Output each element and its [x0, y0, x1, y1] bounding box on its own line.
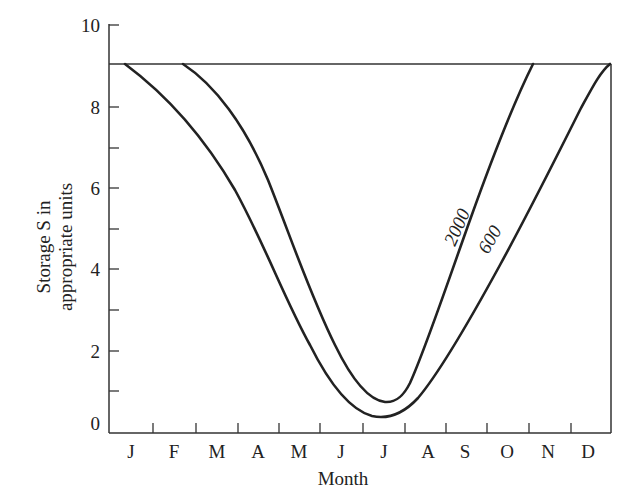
- y-tick-labels: 10 8 6 4 2 0: [81, 15, 101, 434]
- y-tick-label: 8: [91, 97, 101, 118]
- x-tick-label: O: [500, 441, 514, 462]
- x-tick-label: D: [581, 441, 595, 462]
- y-tick-label: 10: [81, 15, 100, 36]
- x-tick-label: J: [337, 441, 344, 462]
- curve-600: [125, 64, 610, 417]
- x-tick-label: N: [541, 441, 555, 462]
- x-tick-label: A: [421, 441, 435, 462]
- y-tick-label: 0: [91, 413, 101, 434]
- y-ticks: [109, 25, 119, 391]
- x-axis-title: Month: [318, 468, 369, 489]
- x-tick-label: F: [169, 441, 180, 462]
- x-tick-label: J: [380, 441, 387, 462]
- x-tick-labels: J F M A M J J A S O N D: [127, 441, 595, 462]
- x-tick-label: S: [460, 441, 471, 462]
- chart: 10 8 6 4 2 0 J F M A M J J A S O N D Mon…: [0, 0, 634, 502]
- curve-label-2000: 2000: [439, 205, 474, 249]
- x-tick-label: M: [209, 441, 226, 462]
- y-axis-title-line1: Storage S in: [33, 200, 54, 293]
- curve-label-600: 600: [473, 221, 506, 257]
- x-tick-label: M: [291, 441, 308, 462]
- y-tick-label: 4: [91, 259, 101, 280]
- y-axis-title-line2: appropriate units: [55, 183, 76, 311]
- x-tick-label: J: [127, 441, 134, 462]
- y-tick-label: 2: [91, 341, 101, 362]
- x-tick-label: A: [251, 441, 265, 462]
- y-tick-label: 6: [91, 178, 101, 199]
- y-axis-title: Storage S in appropriate units: [33, 183, 76, 311]
- x-ticks: [153, 423, 571, 433]
